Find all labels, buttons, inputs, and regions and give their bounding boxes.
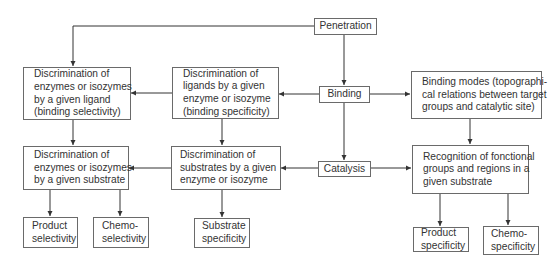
node-label: Binding modes (topographi- (422, 76, 541, 89)
node-binding: Binding (319, 86, 370, 103)
node-label: Chemo- (102, 220, 148, 233)
node-label: Discrimination of (34, 68, 130, 81)
node-label: (binding specificity) (183, 106, 278, 119)
node-label: enzyme or isozyme (183, 93, 278, 106)
node-label: groups and regions in a (423, 163, 528, 176)
node-label: specificity (491, 241, 538, 254)
node-binding-modes: Binding modes (topographi- cal relations… (411, 71, 542, 119)
node-product-specificity: Product specificity (413, 227, 469, 252)
node-label: groups and catalytic site) (422, 101, 541, 114)
node-label: Chemo- (491, 228, 538, 241)
node-recognition: Recognition of fonctional groups and reg… (412, 145, 529, 194)
flow-diagram: Penetration Discrimination of enzymes or… (0, 0, 557, 265)
node-label: given substrate (423, 176, 528, 189)
node-binding-selectivity: Discrimination of enzymes or isozymes by… (23, 67, 131, 120)
node-enzymes-by-substrate: Discrimination of enzymes or isozymes by… (23, 146, 129, 190)
node-label: Binding (328, 88, 362, 101)
node-label: Penetration (319, 20, 371, 33)
node-chemo-specificity: Chemo- specificity (483, 226, 539, 255)
node-catalysis: Catalysis (318, 161, 371, 177)
node-label: specificity (202, 233, 249, 246)
connector-lines (0, 0, 557, 265)
node-label: Discrimination of (183, 68, 278, 81)
node-label: substrates by a given (180, 162, 280, 175)
node-label: enzymes or isozymes (34, 162, 128, 175)
node-label: enzymes or isozymes (34, 81, 130, 94)
node-label: by a given ligand (34, 94, 130, 107)
node-label: Substrate (202, 220, 249, 233)
node-label: selectivity (32, 233, 77, 246)
node-label: by a given substrate (34, 174, 128, 187)
node-label: specificity (421, 240, 468, 253)
node-penetration: Penetration (314, 18, 377, 35)
node-label: Recognition of fonctional (423, 151, 528, 164)
node-product-selectivity: Product selectivity (23, 217, 78, 248)
node-label: (binding selectivity) (34, 106, 130, 119)
node-substrates-by-enzyme: Discrimination of substrates by a given … (171, 146, 281, 190)
node-label: Discrimination of (180, 149, 280, 162)
node-label: selectivity (102, 233, 148, 246)
node-label: Catalysis (324, 163, 365, 176)
node-label: cal relations between target (422, 89, 541, 102)
node-substrate-specificity: Substrate specificity (194, 218, 250, 248)
node-label: Discrimination of (34, 149, 128, 162)
node-label: Product (32, 220, 77, 233)
node-label: ligands by a given (183, 80, 278, 93)
node-chemo-selectivity: Chemo- selectivity (93, 217, 149, 248)
node-label: enzyme or isozyme (180, 174, 280, 187)
node-binding-specificity: Discrimination of ligands by a given enz… (172, 67, 279, 119)
node-label: Product (421, 227, 468, 240)
